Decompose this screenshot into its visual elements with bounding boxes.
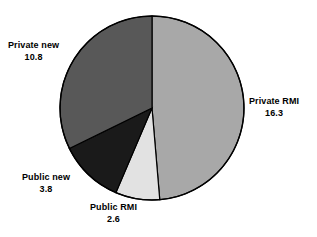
slice-label-public-rmi-value: 2.6	[90, 214, 137, 226]
slice-label-private-rmi-value: 16.3	[249, 108, 299, 120]
slice-label-private-rmi-name: Private RMI	[249, 96, 299, 108]
pie-slice-private-rmi[interactable]	[152, 16, 244, 200]
pie-slices	[60, 16, 244, 200]
slice-label-public-rmi: Public RMI 2.6	[90, 202, 137, 225]
pie-chart-figure: Private new 10.8 Private RMI 16.3 Public…	[0, 0, 317, 237]
slice-label-public-new-name: Public new	[22, 172, 70, 184]
slice-label-private-rmi: Private RMI 16.3	[249, 96, 299, 119]
slice-label-public-new-value: 3.8	[22, 184, 70, 196]
slice-label-private-new-value: 10.8	[8, 52, 59, 64]
slice-label-private-new-name: Private new	[8, 40, 59, 52]
slice-label-private-new: Private new 10.8	[8, 40, 59, 63]
slice-label-public-new: Public new 3.8	[22, 172, 70, 195]
slice-label-public-rmi-name: Public RMI	[90, 202, 137, 214]
